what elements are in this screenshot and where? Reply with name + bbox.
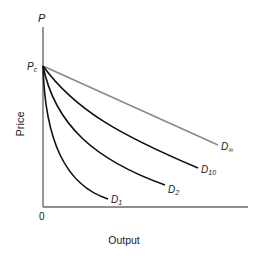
label-d-infinity: D∞ xyxy=(221,141,233,153)
label-d2: D2 xyxy=(168,184,179,196)
curve-d-infinity xyxy=(43,66,218,145)
x-axis-label: Output xyxy=(108,234,140,246)
y-axis-label: Price xyxy=(14,111,26,136)
y-axis-symbol: P xyxy=(38,12,46,24)
demand-curves-diagram: P Pc Price 0 Output D∞ D10 D2 D1 xyxy=(0,0,264,257)
label-d1: D1 xyxy=(111,194,122,206)
curve-d10 xyxy=(43,66,198,168)
origin-label: 0 xyxy=(39,211,45,222)
intercept-label: Pc xyxy=(27,61,38,73)
curve-d2 xyxy=(43,66,165,185)
label-d10: D10 xyxy=(201,164,216,176)
